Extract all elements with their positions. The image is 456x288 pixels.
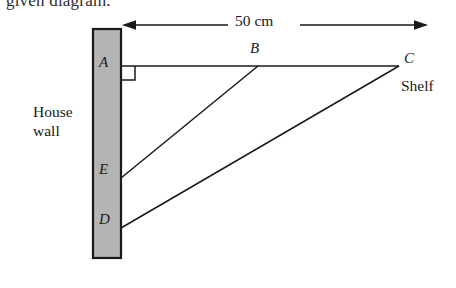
point-label-D: D [99, 211, 110, 228]
dimension-label-50cm: 50 cm [235, 12, 273, 29]
point-label-E: E [99, 161, 108, 178]
brace-line-EB [121, 66, 258, 178]
brace-line-DC [121, 66, 399, 228]
point-label-B: B [250, 40, 259, 57]
dimension-arrow-50cm [122, 20, 428, 30]
dimension-left-arrowhead [122, 20, 136, 30]
geometry-diagram [0, 0, 456, 288]
point-label-A: A [99, 54, 108, 71]
house-wall-label-line2: wall [33, 122, 60, 139]
shelf-label: Shelf [401, 77, 434, 94]
house-wall-label-line1: House [33, 103, 73, 120]
dimension-right-arrowhead [414, 20, 428, 30]
figure-canvas: given diagram. 50 cm A B C D E Shelf Hou… [0, 0, 456, 288]
right-angle-mark-at-A [121, 66, 135, 80]
point-label-C: C [404, 50, 414, 67]
